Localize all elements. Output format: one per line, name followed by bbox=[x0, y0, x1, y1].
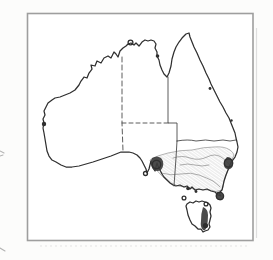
record-dot-qld-coast-2 bbox=[230, 119, 232, 121]
record-dot-wa-coast bbox=[42, 122, 46, 126]
scanned-page bbox=[0, 0, 273, 260]
page-edge-artifact-bottom bbox=[0, 248, 5, 251]
record-dot-se-tasmania bbox=[203, 223, 208, 228]
record-dot-gulf-coast bbox=[156, 54, 160, 58]
distribution-map-figure bbox=[0, 0, 273, 260]
record-dot-vic-coast bbox=[195, 190, 198, 193]
record-dot-port-phillip bbox=[186, 187, 190, 191]
page-edge-artifact-top bbox=[0, 151, 4, 156]
record-dot-qld-coast bbox=[209, 87, 212, 90]
figure-frame bbox=[28, 14, 254, 241]
